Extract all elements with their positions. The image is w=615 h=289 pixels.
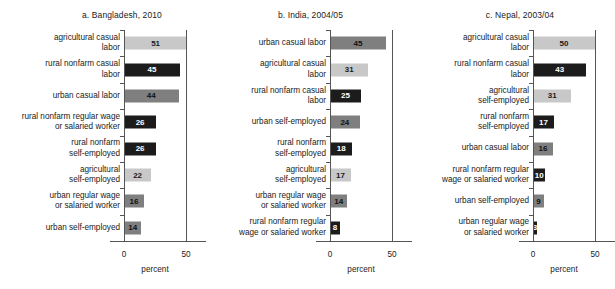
bar-track: 22 bbox=[124, 162, 200, 188]
axis-tick bbox=[120, 83, 124, 84]
bar-category-label: rural nonfarm casual labor bbox=[200, 86, 330, 107]
bar-category-label: urban regular wage or salaried worker bbox=[200, 191, 330, 212]
x-axis-tick-label: 50 bbox=[181, 250, 190, 259]
axis-line-fifty bbox=[595, 30, 596, 241]
bar-row-group: urban casual labor45agricultural casual … bbox=[200, 30, 405, 241]
bar-category-label: urban casual labor bbox=[0, 91, 124, 101]
bar: 51 bbox=[124, 37, 187, 50]
bar-category-label: agricultural self-employed bbox=[200, 165, 330, 186]
bar-category-label: urban casual labor bbox=[405, 143, 533, 153]
bar: 31 bbox=[533, 89, 571, 102]
bar: 25 bbox=[330, 89, 361, 102]
bar-category-label: rural nonfarm self-employed bbox=[200, 138, 330, 159]
bar-row: urban self-employed9 bbox=[405, 188, 615, 214]
plot-area: agricultural casual labor51rural nonfarm… bbox=[0, 30, 200, 241]
bar-category-label: rural nonfarm self-employed bbox=[0, 138, 124, 159]
x-axis-line bbox=[519, 241, 615, 242]
bar-row: agricultural casual labor31 bbox=[200, 56, 405, 82]
bar-track: 16 bbox=[533, 136, 615, 162]
axis-tick bbox=[326, 83, 330, 84]
plot-area: agricultural casual labor50rural nonfarm… bbox=[405, 30, 615, 241]
bar-category-label: rural nonfarm regular wage or salaried w… bbox=[0, 112, 124, 133]
chart-panel-india: b. India, 2004/05 urban casual labor45ag… bbox=[200, 0, 405, 289]
axis-tick bbox=[326, 30, 330, 31]
axis-tick bbox=[120, 136, 124, 137]
axis-line-zero bbox=[533, 30, 534, 241]
axis-tick bbox=[529, 162, 533, 163]
x-axis-title: percent bbox=[347, 265, 374, 274]
x-axis-line bbox=[316, 241, 412, 242]
axis-tick bbox=[529, 136, 533, 137]
bar: 45 bbox=[124, 63, 180, 76]
x-axis-line bbox=[110, 241, 206, 242]
chart-panel-nepal: c. Nepal, 2003/04 agricultural casual la… bbox=[405, 0, 615, 289]
bar: 9 bbox=[533, 195, 544, 208]
bar-track: 10 bbox=[533, 162, 615, 188]
bar-row: rural nonfarm regular wage or salaried w… bbox=[0, 109, 200, 135]
bar-category-label: agricultural self-employed bbox=[405, 86, 533, 107]
x-axis: 050percent bbox=[200, 241, 405, 289]
axis-line-fifty bbox=[186, 30, 187, 241]
x-axis-tick-label: 50 bbox=[387, 250, 396, 259]
axis-tick bbox=[529, 215, 533, 216]
bar-row: rural nonfarm regular wage or salaried w… bbox=[200, 215, 405, 241]
bar-value-label: 18 bbox=[337, 145, 346, 153]
bar-track: 51 bbox=[124, 30, 200, 56]
bar-row: rural nonfarm self-employed26 bbox=[0, 136, 200, 162]
bar-category-label: urban regular wage or salaried worker bbox=[0, 191, 124, 212]
bar-track: 18 bbox=[330, 136, 405, 162]
bar-row: urban regular wage or salaried worker3 bbox=[405, 215, 615, 241]
bar-track: 16 bbox=[124, 188, 200, 214]
bar-row: urban casual labor44 bbox=[0, 83, 200, 109]
bar-track: 50 bbox=[533, 30, 615, 56]
bar: 8 bbox=[330, 221, 340, 234]
bar-value-label: 31 bbox=[548, 92, 557, 100]
bar-track: 3 bbox=[533, 215, 615, 241]
axis-tick bbox=[120, 56, 124, 57]
bar-track: 9 bbox=[533, 188, 615, 214]
bar: 22 bbox=[124, 169, 151, 182]
bar-category-label: urban casual labor bbox=[200, 38, 330, 48]
bar-value-label: 45 bbox=[147, 66, 156, 74]
bar-row: agricultural casual labor50 bbox=[405, 30, 615, 56]
panel-title: c. Nepal, 2003/04 bbox=[405, 10, 615, 20]
bar-row: urban self-employed14 bbox=[0, 215, 200, 241]
bar-category-label: urban self-employed bbox=[405, 196, 533, 206]
bar-row: agricultural casual labor51 bbox=[0, 30, 200, 56]
axis-tick bbox=[120, 215, 124, 216]
bar-track: 8 bbox=[330, 215, 405, 241]
axis-tick bbox=[326, 188, 330, 189]
bar-row: rural nonfarm casual labor45 bbox=[0, 56, 200, 82]
bar: 16 bbox=[533, 142, 553, 155]
x-axis-tick-label: 50 bbox=[590, 250, 599, 259]
bar-track: 26 bbox=[124, 109, 200, 135]
bar-value-label: 17 bbox=[336, 171, 345, 179]
bar-category-label: agricultural casual labor bbox=[0, 33, 124, 54]
bar-value-label: 14 bbox=[334, 197, 343, 205]
bar-value-label: 51 bbox=[151, 39, 160, 47]
panel-title: b. India, 2004/05 bbox=[200, 10, 413, 20]
x-axis: 050percent bbox=[405, 241, 615, 289]
bar-category-label: rural nonfarm casual labor bbox=[405, 59, 533, 80]
bar-track: 45 bbox=[330, 30, 405, 56]
bar-row: rural nonfarm self-employed17 bbox=[405, 109, 615, 135]
bar-value-label: 26 bbox=[136, 118, 145, 126]
bar-row: urban regular wage or salaried worker16 bbox=[0, 188, 200, 214]
x-axis-tick-label: 0 bbox=[122, 250, 127, 259]
bar-row: agricultural self-employed22 bbox=[0, 162, 200, 188]
bar-category-label: urban self-employed bbox=[200, 117, 330, 127]
axis-tick bbox=[529, 30, 533, 31]
bar-category-label: urban regular wage or salaried worker bbox=[405, 217, 533, 238]
bar-track: 14 bbox=[124, 215, 200, 241]
bar-value-label: 17 bbox=[539, 118, 548, 126]
axis-tick bbox=[326, 162, 330, 163]
bar-category-label: rural nonfarm self-employed bbox=[405, 112, 533, 133]
bar-row-group: agricultural casual labor50rural nonfarm… bbox=[405, 30, 615, 241]
bar-category-label: agricultural casual labor bbox=[200, 59, 330, 80]
bar: 26 bbox=[124, 142, 156, 155]
multi-panel-bar-chart: a. Bangladesh, 2010 agricultural casual … bbox=[0, 0, 615, 289]
bar: 17 bbox=[330, 169, 351, 182]
bar: 44 bbox=[124, 89, 179, 102]
axis-tick bbox=[120, 162, 124, 163]
bar-value-label: 50 bbox=[560, 39, 569, 47]
